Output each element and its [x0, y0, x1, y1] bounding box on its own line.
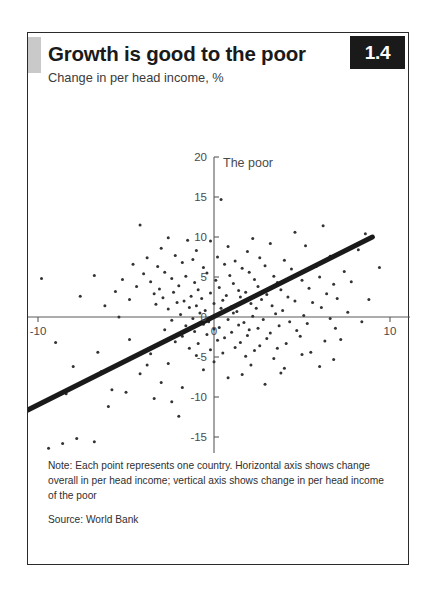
- data-point: [167, 308, 170, 311]
- data-point: [293, 231, 296, 234]
- data-point: [239, 296, 242, 299]
- data-point: [283, 367, 286, 370]
- data-point: [227, 245, 230, 248]
- plot-svg: -20-1001020-20-15-10-505101520The poorOv…: [28, 109, 410, 453]
- data-point: [197, 288, 200, 291]
- data-point: [246, 250, 249, 253]
- data-point: [288, 320, 291, 323]
- data-point: [241, 373, 244, 376]
- data-point: [103, 304, 106, 307]
- note-text: Note: Each point represents one country.…: [48, 458, 393, 503]
- data-point: [54, 341, 57, 344]
- data-point: [301, 353, 304, 356]
- data-point: [209, 240, 212, 243]
- data-point: [186, 239, 189, 242]
- data-point: [329, 317, 332, 320]
- data-point: [213, 360, 216, 363]
- data-point: [364, 232, 367, 235]
- data-point: [320, 306, 323, 309]
- data-point: [286, 296, 289, 299]
- data-point: [160, 247, 163, 250]
- data-point: [176, 301, 179, 304]
- data-point: [334, 327, 337, 330]
- data-point: [318, 276, 321, 279]
- data-point: [253, 349, 256, 352]
- figure-header: Growth is good to the poor Change in per…: [48, 43, 394, 85]
- data-point: [295, 329, 298, 332]
- data-point: [135, 285, 138, 288]
- data-point: [220, 307, 223, 310]
- data-point: [181, 386, 184, 389]
- data-point: [47, 447, 50, 450]
- data-point: [306, 322, 309, 325]
- data-point: [290, 268, 293, 271]
- data-point: [216, 256, 219, 259]
- data-point: [232, 282, 235, 285]
- data-point: [223, 336, 226, 339]
- data-point: [367, 298, 370, 301]
- x-tick-label: 0: [211, 325, 217, 337]
- data-point: [121, 278, 124, 281]
- data-point: [274, 312, 277, 315]
- data-point: [61, 442, 64, 445]
- data-point: [170, 277, 173, 280]
- data-point: [214, 279, 217, 282]
- chart-subtitle: Change in per head income, %: [48, 70, 394, 85]
- y-tick-label: 20: [194, 151, 207, 163]
- data-point: [260, 298, 263, 301]
- data-point: [272, 357, 275, 360]
- data-point: [228, 274, 231, 277]
- data-point: [279, 288, 282, 291]
- data-point: [205, 333, 208, 336]
- data-point: [237, 324, 240, 327]
- data-point: [262, 318, 265, 321]
- data-point: [311, 301, 314, 304]
- data-point: [174, 340, 177, 343]
- data-point: [227, 376, 230, 379]
- data-point: [167, 236, 170, 239]
- data-point: [114, 290, 117, 293]
- data-point: [209, 292, 212, 295]
- data-point: [221, 299, 224, 302]
- data-point: [158, 288, 161, 291]
- data-point: [193, 281, 196, 284]
- data-point: [177, 284, 180, 287]
- figure-page: Growth is good to the poor Change in per…: [0, 0, 436, 597]
- data-point: [269, 242, 272, 245]
- data-point: [40, 277, 43, 280]
- data-point: [213, 302, 216, 305]
- data-point: [357, 248, 360, 251]
- x-tick-label: 10: [384, 325, 397, 337]
- data-point: [216, 339, 219, 342]
- data-point: [318, 365, 321, 368]
- data-point: [177, 415, 180, 418]
- data-point: [197, 342, 200, 345]
- data-point: [193, 330, 196, 333]
- data-point: [139, 372, 142, 375]
- data-point: [218, 326, 221, 329]
- data-point: [160, 381, 163, 384]
- data-point: [139, 224, 142, 227]
- data-point: [195, 249, 198, 252]
- data-point: [223, 263, 226, 266]
- data-point: [265, 293, 268, 296]
- data-point: [221, 352, 224, 355]
- data-point: [301, 279, 304, 282]
- data-point: [279, 372, 282, 375]
- source-text: Source: World Bank: [48, 514, 393, 525]
- data-point: [299, 335, 302, 338]
- data-point: [265, 337, 268, 340]
- data-point: [322, 224, 325, 227]
- data-point: [350, 280, 353, 283]
- data-point: [302, 314, 305, 317]
- data-point: [163, 328, 166, 331]
- y-tick-label: -5: [197, 351, 207, 363]
- data-point: [154, 303, 157, 306]
- data-point: [170, 400, 173, 403]
- data-point: [167, 362, 170, 365]
- data-point: [184, 275, 187, 278]
- data-point: [107, 405, 110, 408]
- y-tick-label: 10: [194, 231, 207, 243]
- data-point: [325, 292, 328, 295]
- data-point: [125, 391, 128, 394]
